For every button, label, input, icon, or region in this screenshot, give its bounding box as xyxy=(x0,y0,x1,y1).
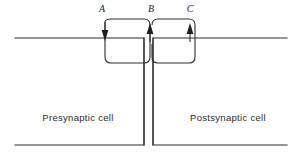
arrow-b xyxy=(147,23,154,42)
label-a: A xyxy=(98,3,106,14)
arrow-c xyxy=(187,23,194,42)
postsynaptic-cell-label: Postsynaptic cell xyxy=(190,112,266,123)
presynaptic-membrane xyxy=(15,38,144,145)
presynaptic-cell-label: Presynaptic cell xyxy=(42,112,113,123)
postsynaptic-membrane xyxy=(153,38,287,145)
loop-b-to-c xyxy=(152,19,195,63)
label-b: B xyxy=(148,3,154,14)
synapse-diagram: A B C Presynaptic cell Postsynaptic cell xyxy=(0,0,300,159)
loop-a-to-b xyxy=(105,19,150,63)
label-c: C xyxy=(187,3,194,14)
